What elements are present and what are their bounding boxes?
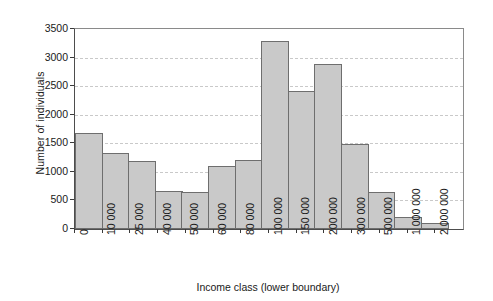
x-axis-tick-label: 40 000 <box>162 203 173 235</box>
x-axis-tick-mark <box>434 229 435 233</box>
x-axis-tick-label: 0 <box>79 229 90 235</box>
x-axis-tick-mark <box>323 229 324 233</box>
x-axis-tick-label: 60 000 <box>217 203 228 235</box>
y-axis-tick-label: 500 <box>50 194 68 204</box>
x-axis-tick-mark <box>268 229 269 233</box>
histogram-figure: Number of individuals 050010001500200025… <box>0 0 493 301</box>
x-axis-tick-label: 500 000 <box>383 197 394 235</box>
x-axis-tick-mark <box>129 229 130 233</box>
x-axis-tick-mark <box>74 229 75 233</box>
plot-area <box>74 28 464 230</box>
x-axis-tick-label: 10 000 <box>106 203 117 235</box>
y-axis-tick-label: 1000 <box>45 166 68 176</box>
x-axis-tick-mark <box>407 229 408 233</box>
bar <box>75 133 103 229</box>
x-axis-tick-label: 50 000 <box>189 203 200 235</box>
x-axis-tick-label: 200 000 <box>328 197 339 235</box>
x-axis-tick-label: 300 000 <box>356 197 367 235</box>
bar-series <box>75 29 463 229</box>
y-axis-tick-label: 3500 <box>45 23 68 33</box>
x-axis-tick-mark <box>351 229 352 233</box>
x-axis-tick-mark <box>157 229 158 233</box>
x-axis-tick-mark <box>102 229 103 233</box>
y-axis-tick-label: 3000 <box>45 52 68 62</box>
x-axis-tick-label: 80 000 <box>245 203 256 235</box>
x-axis-tick-label: 150 000 <box>300 197 311 235</box>
y-axis-tick-label: 2500 <box>45 80 68 90</box>
x-axis-tick-label: 2 000 000 <box>439 188 450 235</box>
y-axis-tick-labels: 0500100015002000250030003500 <box>38 20 74 235</box>
x-axis-tick-mark <box>296 229 297 233</box>
x-axis-tick-label: 25 000 <box>134 203 145 235</box>
y-axis-tick-label: 2000 <box>45 109 68 119</box>
x-axis-tick-mark <box>185 229 186 233</box>
x-axis-tick-label: 1 000 000 <box>411 188 422 235</box>
x-axis-tick-mark <box>213 229 214 233</box>
y-axis-tick-label: 0 <box>62 223 68 233</box>
x-axis-title: Income class (lower boundary) <box>74 281 462 293</box>
y-axis-tick-label: 1500 <box>45 137 68 147</box>
x-axis-tick-mark <box>379 229 380 233</box>
x-axis-tick-label: 100 000 <box>273 197 284 235</box>
x-axis-tick-mark <box>240 229 241 233</box>
